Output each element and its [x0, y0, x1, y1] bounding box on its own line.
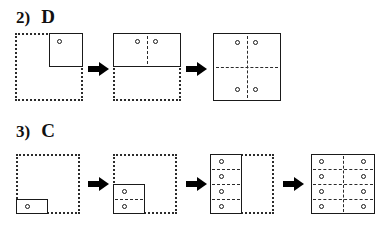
circle-dot [219, 189, 224, 194]
solid-cell [16, 199, 48, 214]
circle-dot [361, 159, 366, 164]
circle-dot [361, 204, 366, 209]
dashed-horizontal-divider [313, 184, 373, 185]
row-2-answer: D [41, 6, 55, 27]
circle-dot [122, 189, 127, 194]
arrow-right-icon [88, 177, 109, 191]
arrow-right-icon [283, 177, 304, 191]
circle-dot [235, 87, 240, 92]
dashed-horizontal-divider [313, 169, 373, 170]
circle-dot [57, 39, 62, 44]
circle-dot [319, 174, 324, 179]
dashed-vertical-divider [147, 36, 148, 64]
circle-dot [122, 204, 127, 209]
row-3-step-3-figure [210, 154, 274, 214]
dashed-horizontal-divider [212, 169, 240, 170]
arrow-head [197, 62, 207, 76]
row-3-step-2-figure [113, 154, 177, 214]
dashed-horizontal-divider [115, 199, 143, 200]
solid-cell [49, 33, 83, 67]
arrow-head [294, 177, 304, 191]
circle-dot [319, 189, 324, 194]
row-3-step-1-figure [16, 154, 80, 214]
arrow-head [197, 177, 207, 191]
circle-dot [253, 87, 258, 92]
dashed-horizontal-divider [313, 199, 373, 200]
circle-dot [235, 40, 240, 45]
row-2-label: 2)D [16, 7, 55, 26]
circle-dot [361, 174, 366, 179]
row-3-number: 3) [16, 122, 30, 141]
circle-dot [219, 174, 224, 179]
row-2-step-1-figure [15, 33, 83, 101]
arrow-right-icon [186, 177, 207, 191]
dashed-horizontal-divider [212, 199, 240, 200]
row-2-number: 2) [16, 8, 30, 27]
arrow-head [99, 62, 109, 76]
arrow-right-icon [88, 62, 109, 76]
circle-dot [219, 204, 224, 209]
circle-dot [319, 159, 324, 164]
dashed-horizontal-divider [216, 67, 278, 68]
circle-dot [153, 39, 158, 44]
circle-dot [219, 159, 224, 164]
row-2-step-2-figure [113, 33, 181, 101]
circle-dot [319, 204, 324, 209]
circle-dot [253, 40, 258, 45]
dashed-horizontal-divider [212, 184, 240, 185]
diagram-canvas: 2)D 3)C [0, 0, 385, 228]
circle-dot [25, 204, 30, 209]
row-2-step-3-figure [213, 33, 281, 101]
row-3-step-4-figure [311, 154, 375, 214]
circle-dot [135, 39, 140, 44]
row-3-label: 3)C [16, 121, 55, 140]
circle-dot [361, 189, 366, 194]
arrow-right-icon [186, 62, 207, 76]
arrow-head [99, 177, 109, 191]
row-3-answer: C [41, 120, 55, 141]
